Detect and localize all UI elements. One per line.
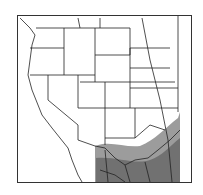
range-map [0,0,203,195]
